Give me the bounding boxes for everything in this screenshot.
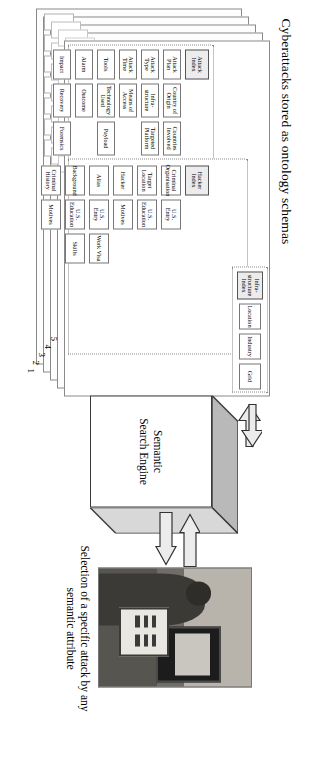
attack-node-impact[interactable]: Impact bbox=[53, 49, 71, 79]
stack-layer-number-5: 5 bbox=[49, 336, 59, 341]
attack-node-alarm[interactable]: Alarm bbox=[75, 49, 93, 79]
attack-node-outcome[interactable]: Outcome bbox=[75, 83, 93, 117]
attack-node-recovery[interactable]: Recovery bbox=[53, 83, 71, 117]
figure-title: Cyberattacks stored as ontology schemas bbox=[278, 18, 280, 244]
hacker-node-work-visa[interactable]: Work Visa bbox=[89, 233, 109, 263]
infrastructure-node-industry[interactable]: Industry bbox=[239, 333, 261, 359]
stack-layer-number-4: 4 bbox=[43, 344, 53, 349]
hacker-node-criminal-history[interactable]: Criminal History bbox=[41, 165, 61, 195]
figure-canvas: Cyberattacks stored as ontology schemas bbox=[20, 0, 280, 763]
photo-tablet bbox=[119, 607, 169, 656]
attack-node-forensics[interactable]: Forensics bbox=[53, 121, 71, 155]
user-photo bbox=[98, 567, 252, 687]
ontology-schema-stack: 1 2 3 4 5 Attack Index Attack Plan Count… bbox=[28, 8, 274, 400]
attack-index-node[interactable]: Attack Index bbox=[185, 49, 209, 79]
hacker-node-us-entry-2[interactable]: U.S. Entry bbox=[89, 199, 109, 229]
hacker-node-us-entry-1[interactable]: U.S. Entry bbox=[161, 199, 181, 229]
figure-caption: Selection of a specific attack by any se… bbox=[63, 540, 92, 716]
photo-person-head bbox=[186, 581, 212, 605]
hacker-node-motives-1[interactable]: Motives bbox=[113, 199, 133, 229]
hacker-node-hacker[interactable]: Hacker bbox=[113, 165, 133, 195]
attack-node-countries-involved[interactable]: Countries Involved bbox=[163, 121, 181, 155]
attack-node-tools[interactable]: Tools bbox=[97, 49, 115, 79]
hacker-index-node[interactable]: Hacker Index bbox=[185, 165, 209, 195]
infrastructure-ontology-group: Infra-structure Index Location Industry … bbox=[232, 266, 268, 392]
hacker-node-target-location[interactable]: Target Location bbox=[137, 165, 157, 195]
hacker-node-criminal-organisation[interactable]: Criminal Organisation bbox=[161, 165, 181, 195]
arrow-pair-engine-user bbox=[154, 508, 200, 570]
attack-node-attack-type[interactable]: Attack Type bbox=[141, 49, 159, 79]
attack-node-country-of-origin[interactable]: Country of Origin bbox=[163, 83, 181, 117]
infrastructure-node-grid[interactable]: Grid bbox=[239, 363, 261, 389]
attack-node-payload[interactable]: Payload bbox=[97, 121, 115, 155]
arrow-to-user-icon bbox=[156, 512, 176, 564]
hacker-node-motives-2[interactable]: Motives bbox=[41, 199, 61, 229]
hacker-node-background[interactable]: Background bbox=[65, 165, 85, 195]
attack-node-attack-plan[interactable]: Attack Plan bbox=[163, 49, 181, 79]
hacker-node-skills[interactable]: Skills bbox=[65, 233, 85, 263]
hacker-node-alias[interactable]: Alias bbox=[89, 165, 109, 195]
attack-node-technology-used[interactable]: Technology Used bbox=[97, 83, 115, 117]
infrastructure-node-location[interactable]: Location bbox=[239, 303, 261, 329]
photo-monitor-screen bbox=[175, 633, 210, 675]
hacker-ontology-group: Hacker Index Criminal Organisation U.S. … bbox=[68, 158, 248, 354]
engine-label-line1: Semantic bbox=[152, 430, 164, 473]
infrastructure-index-node[interactable]: Infra-structure Index bbox=[237, 271, 263, 299]
attack-node-attack-time[interactable]: Attack Time bbox=[119, 49, 137, 79]
arrow-to-engine-icon bbox=[180, 514, 200, 566]
engine-label: Semantic Search Engine bbox=[137, 418, 166, 485]
stack-layer-number-1: 1 bbox=[26, 368, 36, 373]
stack-layer-number-3: 3 bbox=[37, 352, 47, 357]
cube-front-face[interactable]: Semantic Search Engine bbox=[90, 395, 212, 507]
hacker-node-us-education-1[interactable]: U.S. Education bbox=[137, 199, 157, 229]
engine-label-line2: Search Engine bbox=[138, 418, 150, 485]
stack-layer-number-2: 2 bbox=[31, 360, 41, 365]
attack-node-targeted-platform[interactable]: Targeted Platform bbox=[141, 121, 159, 155]
attack-node-means-of-access[interactable]: Means of Access bbox=[119, 83, 137, 117]
hacker-node-us-education-2[interactable]: U.S. Education bbox=[65, 199, 85, 229]
attack-node-infrastructure[interactable]: Infra-structure bbox=[141, 83, 159, 117]
